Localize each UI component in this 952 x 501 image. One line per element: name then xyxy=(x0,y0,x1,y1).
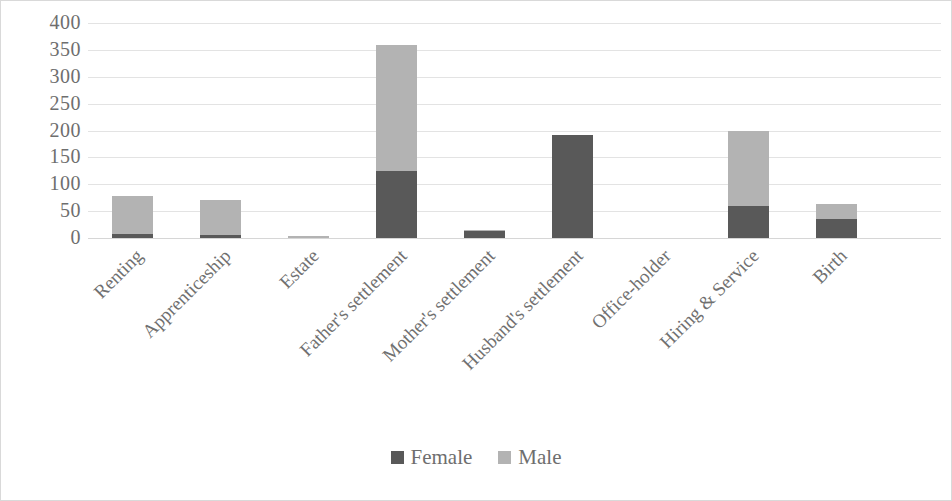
bar-group-2[interactable] xyxy=(264,23,352,238)
plot-area xyxy=(88,23,941,238)
bar-segment-male[interactable] xyxy=(376,45,417,171)
stacked-bar[interactable] xyxy=(288,236,329,238)
x-axis-labels: RentingApprenticeshipEstateFather's sett… xyxy=(88,241,941,421)
bar-segment-male[interactable] xyxy=(200,200,241,234)
bar-group-1[interactable] xyxy=(176,23,264,238)
stacked-bar[interactable] xyxy=(464,230,505,238)
bar-group-8[interactable] xyxy=(792,23,880,238)
y-tick-label-400: 400 xyxy=(11,12,81,32)
legend-item-male[interactable]: Male xyxy=(498,447,561,468)
bar-segment-male[interactable] xyxy=(728,131,769,206)
y-tick-label-350: 350 xyxy=(11,39,81,59)
y-tick-label-0: 0 xyxy=(11,227,81,247)
y-tick-label-50: 50 xyxy=(11,200,81,220)
y-tick-label-150: 150 xyxy=(11,146,81,166)
chart-legend: FemaleMale xyxy=(1,447,951,468)
y-tick-label-300: 300 xyxy=(11,66,81,86)
bar-group-3[interactable] xyxy=(352,23,440,238)
bar-segment-female[interactable] xyxy=(728,206,769,238)
y-tick-label-250: 250 xyxy=(11,93,81,113)
stacked-bar[interactable] xyxy=(816,204,857,238)
x-label-slot-7: Hiring & Service xyxy=(704,241,792,411)
x-label-slot-8: Birth xyxy=(792,241,880,411)
y-tick-label-200: 200 xyxy=(11,120,81,140)
bar-segment-male[interactable] xyxy=(288,236,329,238)
legend-item-female[interactable]: Female xyxy=(391,447,473,468)
bar-segment-female[interactable] xyxy=(816,219,857,238)
bar-segment-female[interactable] xyxy=(112,234,153,238)
bar-segment-female[interactable] xyxy=(376,171,417,238)
stacked-bar[interactable] xyxy=(112,196,153,238)
x-tick-label: Estate xyxy=(275,245,323,293)
stacked-bar[interactable] xyxy=(728,131,769,239)
bar-segment-male[interactable] xyxy=(816,204,857,219)
bar-segment-female[interactable] xyxy=(464,231,505,238)
gridline-0 xyxy=(88,238,941,239)
legend-label: Female xyxy=(411,447,473,468)
stacked-bar[interactable] xyxy=(200,200,241,238)
bar-segment-female[interactable] xyxy=(552,135,593,238)
y-tick-label-100: 100 xyxy=(11,173,81,193)
legend-label: Male xyxy=(518,447,561,468)
bar-segment-female[interactable] xyxy=(200,235,241,238)
x-tick-label: Renting xyxy=(89,245,147,303)
stacked-bar[interactable] xyxy=(552,135,593,238)
bar-group-6[interactable] xyxy=(616,23,704,238)
chart-figure: 400350300250200150100500 RentingApprenti… xyxy=(0,0,952,501)
bar-segment-male[interactable] xyxy=(112,196,153,234)
y-axis: 400350300250200150100500 xyxy=(9,23,81,238)
bar-group-4[interactable] xyxy=(440,23,528,238)
x-label-slot-1: Apprenticeship xyxy=(176,241,264,411)
x-tick-label: Birth xyxy=(808,245,851,288)
bar-group-5[interactable] xyxy=(528,23,616,238)
stacked-bar[interactable] xyxy=(376,45,417,239)
bar-group-0[interactable] xyxy=(88,23,176,238)
bar-group-7[interactable] xyxy=(704,23,792,238)
legend-swatch-icon xyxy=(498,451,511,464)
legend-swatch-icon xyxy=(391,451,404,464)
